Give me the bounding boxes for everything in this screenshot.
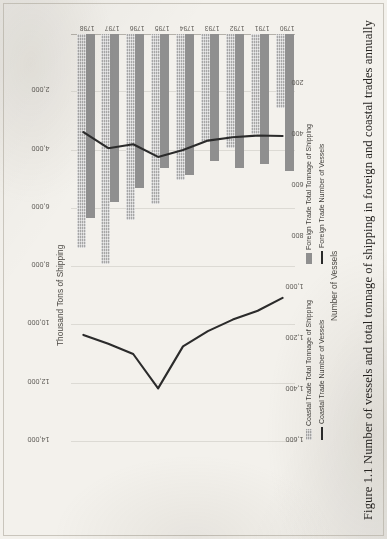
figure-caption-text: Figure 1.1 Number of vessels and total t…	[361, 19, 376, 519]
legend-bar-swatch	[306, 429, 312, 440]
category-label: 1792	[230, 25, 245, 32]
category-label: 1791	[255, 25, 270, 32]
legend-item[interactable]: Foreign Trade Number of Vessels	[318, 144, 325, 264]
legend-line-swatch	[321, 427, 323, 440]
category-label: 1795	[155, 25, 170, 32]
legend-label: Foreign Trade Total Tonnage of Shipping	[305, 124, 312, 250]
bottom-axis-title: Number of Vessels	[329, 251, 339, 321]
page-border-bottom	[3, 535, 384, 536]
line-series	[71, 34, 295, 442]
legend-item[interactable]: Coastal Trade Total Tonnage of Shipping	[305, 300, 312, 440]
legend-item[interactable]: Foreign Trade Total Tonnage of Shipping	[305, 124, 312, 264]
plot-area	[71, 34, 295, 442]
legend-bar-swatch	[306, 253, 312, 264]
bottom-axis-tick: 800	[292, 231, 304, 240]
bottom-axis-tick: 600	[292, 180, 304, 189]
bottom-axis-tick: 400	[292, 129, 304, 138]
top-axis-tick: 2,000	[32, 85, 50, 94]
page-border-left	[3, 3, 4, 536]
top-axis-tick: 6,000	[32, 201, 50, 210]
legend-label: Coastal Trade Total Tonnage of Shipping	[305, 300, 312, 426]
category-label: 1797	[105, 25, 120, 32]
bottom-axis-tick: 200	[292, 78, 304, 87]
legend-item[interactable]: Coastal Trade Number of Vessels	[318, 320, 325, 440]
page-border-top	[3, 3, 384, 4]
legend-label: Coastal Trade Number of Vessels	[318, 320, 325, 424]
top-axis-title: Thousand Tons of Shipping	[55, 245, 65, 346]
top-axis-tick: 4,000	[32, 143, 50, 152]
legend-label: Foreign Trade Number of Vessels	[318, 144, 325, 248]
category-label: 1798	[80, 25, 95, 32]
legend-line-swatch	[321, 251, 323, 264]
category-label: 1793	[205, 25, 220, 32]
bottom-axis-tick: 1,400	[286, 384, 304, 393]
page-border-right	[383, 3, 384, 536]
line-foreign-vessels	[83, 132, 282, 157]
bottom-axis-tick: 1,200	[286, 333, 304, 342]
bottom-axis-tick: 1,600	[286, 435, 304, 444]
category-label: 1790	[279, 25, 294, 32]
top-axis-tick: 14,000	[28, 435, 50, 444]
line-coastal-vessels	[83, 298, 282, 389]
top-axis-tick: 10,000	[28, 318, 50, 327]
bottom-axis-tick: 1,000	[286, 282, 304, 291]
category-label: 1794	[180, 25, 195, 32]
top-axis-tick: 12,000	[28, 376, 50, 385]
scanned-page: Thousand Tons of Shipping 14,00012,00010…	[0, 0, 387, 539]
category-label: 1796	[130, 25, 145, 32]
top-axis-tick: 8,000	[32, 260, 50, 269]
figure-chart: Thousand Tons of Shipping 14,00012,00010…	[43, 16, 343, 496]
figure-caption: Figure 1.1 Number of vessels and total t…	[355, 0, 381, 539]
